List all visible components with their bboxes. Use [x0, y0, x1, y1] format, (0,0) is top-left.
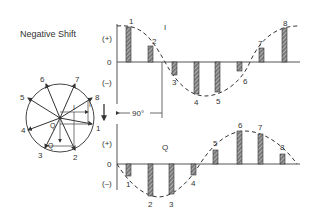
- i-sample-2: 2: [152, 37, 157, 46]
- phase-shift-label: 90°: [132, 109, 144, 118]
- vector-label-6: 6: [40, 75, 45, 84]
- q-sample-1: 1: [126, 180, 131, 189]
- i-plot-name: I: [164, 23, 166, 32]
- q-plot: [117, 124, 300, 190]
- i-sample-5: 5: [216, 97, 221, 106]
- vector-label-5: 5: [20, 93, 25, 102]
- i-plot: [117, 24, 300, 104]
- label-q1: Q: [50, 122, 56, 130]
- vector-label-7: 7: [75, 75, 80, 84]
- vector-label-2: 2: [73, 153, 78, 162]
- q-plot-name: Q: [162, 143, 168, 152]
- i-bars: [126, 27, 287, 94]
- q-sample-6: 6: [238, 121, 243, 130]
- vector-label-3: 3: [38, 151, 43, 160]
- vector-label-8: 8: [95, 93, 100, 102]
- q-sample-5: 5: [213, 139, 218, 148]
- q-plus-label: (+): [102, 139, 112, 148]
- label-i1: I: [73, 104, 75, 111]
- phasor-diagram: 1 2 3 4 5 6 7 8 I I Q Q: [0, 0, 317, 220]
- label-i2: I: [89, 101, 91, 108]
- i-sample-7: 7: [258, 39, 263, 48]
- i-sample-4: 4: [194, 98, 199, 107]
- q-sample-3: 3: [169, 200, 174, 209]
- i-sample-3: 3: [172, 78, 177, 87]
- vector-label-1: 1: [96, 124, 101, 133]
- q-sample-2: 2: [148, 200, 153, 209]
- i-sample-1: 1: [129, 17, 134, 26]
- q-sample-8: 8: [280, 143, 285, 152]
- q-zero-label: 0: [107, 160, 112, 169]
- i-sample-6: 6: [243, 77, 248, 86]
- i-plus-label: (+): [102, 34, 112, 43]
- i-cosine-curve: [117, 26, 298, 96]
- q-minus-label: (–): [102, 179, 112, 188]
- i-sample-8: 8: [283, 19, 288, 28]
- q-sample-7: 7: [258, 123, 263, 132]
- label-q2: Q: [48, 142, 54, 150]
- q-sample-4: 4: [191, 179, 196, 188]
- negative-shift-diagram: Negative Shift: [0, 0, 317, 220]
- i-zero-label: 0: [107, 58, 112, 67]
- vector-label-4: 4: [21, 126, 26, 135]
- i-minus-label: (–): [102, 78, 112, 87]
